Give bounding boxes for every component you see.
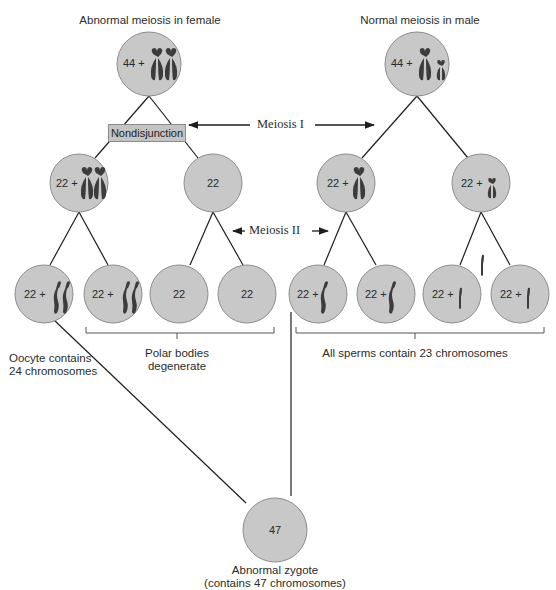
male-l3-count: 22 + <box>432 288 454 300</box>
female-title: Abnormal meiosis in female <box>65 14 235 27</box>
meiosis-2-label: Meiosis II <box>245 224 304 237</box>
zygote-caption: Abnormal zygote (contains 47 chromosomes… <box>185 564 365 590</box>
sperms-annotation: All sperms contain 23 chromosomes <box>320 347 510 360</box>
nondisjunction-label: Nondisjunction <box>108 124 186 142</box>
brackets <box>86 327 544 339</box>
meiosis-1-label: Meiosis I <box>253 118 308 131</box>
female-l3-count: 22 + <box>24 288 46 300</box>
female-l2-count: 22 + <box>56 177 78 189</box>
male-l3-count: 22 + <box>500 288 522 300</box>
female-l2-count: 22 <box>207 177 219 189</box>
male-l2-count: 22 + <box>461 177 483 189</box>
female-top-count: 44 + <box>123 57 145 69</box>
male-l3-count: 22 + <box>297 288 319 300</box>
female-l3-count: 22 + <box>92 288 114 300</box>
zygote-count: 47 <box>269 524 281 536</box>
oocyte-annotation: Oocyte contains 24 chromosomes <box>9 352 97 378</box>
polar-bodies-annotation: Polar bodies degenerate <box>127 347 227 373</box>
male-l3-count: 22 + <box>365 288 387 300</box>
male-top-count: 44 + <box>391 57 413 69</box>
female-l3-count: 22 <box>173 288 185 300</box>
female-l3-count: 22 <box>241 288 253 300</box>
male-title: Normal meiosis in male <box>340 14 500 27</box>
male-l2-count: 22 + <box>327 177 349 189</box>
